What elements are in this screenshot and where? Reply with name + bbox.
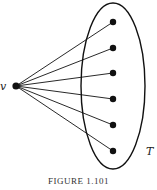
set-node-2	[110, 45, 116, 51]
edge-3	[16, 73, 113, 86]
edge-6	[16, 86, 113, 151]
set-node-5	[110, 122, 116, 128]
edge-4	[16, 86, 113, 99]
edge-5	[16, 86, 113, 125]
set-nodes	[110, 19, 116, 154]
figure-caption: FIGURE 1.101	[0, 176, 157, 186]
set-node-4	[110, 96, 116, 102]
set-node-3	[110, 70, 116, 76]
set-t-ellipse	[81, 3, 145, 169]
set-t-label: T	[146, 145, 155, 158]
set-node-1	[110, 19, 116, 25]
edges	[16, 22, 113, 151]
vertex-v	[12, 82, 19, 89]
graph-diagram: v T	[0, 0, 157, 190]
vertex-v-label: v	[0, 80, 7, 93]
set-node-6	[110, 148, 116, 154]
